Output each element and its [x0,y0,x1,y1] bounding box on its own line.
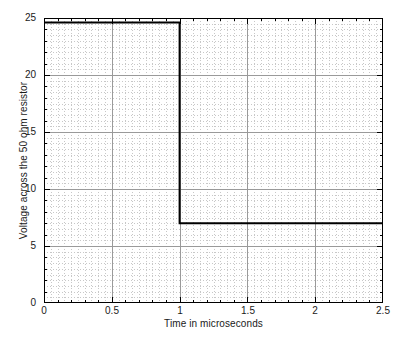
figure-canvas: Voltage across the 50 ohm resistor 25 20… [0,0,405,339]
major-gridlines [44,18,383,303]
x-axis-label: Time in microseconds [44,318,383,329]
x-tick-label-0: 0 [24,305,64,317]
y-tick-label-25: 25 [10,12,36,24]
minor-gridlines [44,18,383,303]
y-tick-label-10: 10 [10,183,36,195]
y-tick-label-15: 15 [10,126,36,138]
x-tick-label-1-5: 1.5 [228,305,268,317]
y-tick-label-5: 5 [10,240,36,252]
y-tick-label-20: 20 [10,69,36,81]
x-tick-label-0-5: 0.5 [92,305,132,317]
x-tick-label-1: 1 [160,305,200,317]
y-axis-label: Voltage across the 50 ohm resistor [16,18,32,303]
axis-tick-marks [44,18,383,303]
plot-frame [45,19,383,303]
plot-area [44,18,383,303]
x-tick-label-2-5: 2.5 [363,305,403,317]
x-tick-label-2: 2 [295,305,335,317]
plot-svg [44,18,383,303]
